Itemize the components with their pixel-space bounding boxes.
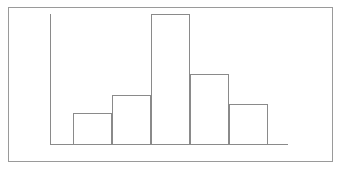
histogram-bar [112, 95, 151, 144]
histogram-bar [229, 104, 268, 144]
histogram-bar [151, 14, 190, 144]
y-axis-line [50, 14, 51, 144]
plot-area [0, 0, 342, 169]
histogram-bar [190, 74, 229, 144]
histogram-bar [73, 113, 112, 144]
screenshot-canvas [0, 0, 342, 169]
x-axis-line [50, 144, 288, 145]
figure-border-frame [8, 7, 333, 162]
